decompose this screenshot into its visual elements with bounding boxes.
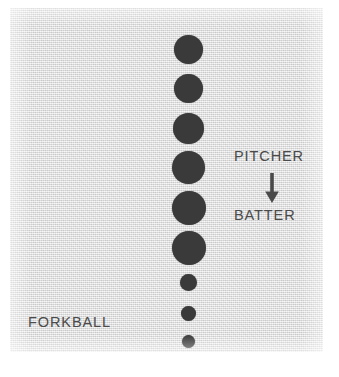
- ball-position-5: [172, 191, 206, 225]
- ball-position-9: [182, 335, 195, 348]
- ball-position-1: [174, 35, 203, 64]
- ball-position-2: [174, 74, 203, 103]
- forkball-photograph-plate: PITCHER BATTER FORKBALL: [10, 8, 323, 352]
- arrow-down-icon: [264, 173, 280, 203]
- ball-position-6: [172, 231, 206, 265]
- forkball-caption-label: FORKBALL: [28, 315, 111, 330]
- ball-position-8: [181, 306, 196, 321]
- ball-position-4: [172, 151, 205, 184]
- batter-label: BATTER: [234, 208, 296, 223]
- ball-position-3: [173, 113, 204, 144]
- ball-position-7: [180, 274, 197, 291]
- pitcher-label: PITCHER: [234, 149, 304, 164]
